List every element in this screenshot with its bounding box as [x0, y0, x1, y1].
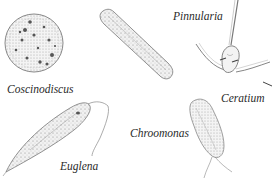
label-euglena: Euglena	[60, 161, 98, 173]
pinnularia-drawing	[100, 9, 173, 79]
label-coscinodiscus: Coscinodiscus	[7, 84, 73, 96]
chroomonas-drawing	[190, 99, 232, 178]
plankton-plate: Coscinodiscus Pinnularia Ceratium Chroom…	[0, 0, 273, 180]
label-pinnularia: Pinnularia	[173, 11, 223, 23]
label-ceratium: Ceratium	[221, 93, 264, 105]
coscinodiscus-drawing	[5, 14, 63, 72]
label-chroomonas: Chroomonas	[130, 128, 189, 140]
